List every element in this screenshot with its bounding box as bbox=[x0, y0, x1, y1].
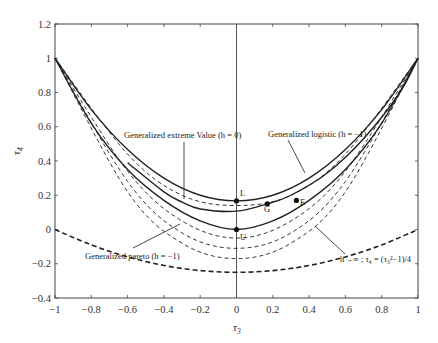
y-tick-label: −0.4 bbox=[32, 293, 52, 304]
x-axis-title: τ3 bbox=[233, 321, 241, 336]
x-tick-label: −1 bbox=[49, 304, 60, 315]
limit-label: h→∞ ; τ₄ = (τ₃²−1)/4 bbox=[340, 254, 412, 264]
point-E bbox=[294, 198, 299, 203]
point-G-label: G bbox=[264, 204, 270, 214]
x-tick-label: 0.2 bbox=[266, 304, 279, 315]
glo-pointer bbox=[288, 140, 305, 173]
x-tick-label: −0.2 bbox=[191, 304, 210, 315]
x-tick-label: −0.8 bbox=[82, 304, 101, 315]
x-tick-label: 0.4 bbox=[303, 304, 317, 315]
point-U-label: U bbox=[240, 232, 246, 242]
y-tick-label: 0.2 bbox=[38, 190, 51, 201]
x-tick-label: 0.6 bbox=[339, 304, 352, 315]
y-tick-label: 1 bbox=[46, 53, 51, 64]
y-tick-label: 0 bbox=[46, 224, 51, 235]
y-axis-title: τ4 bbox=[10, 147, 25, 155]
y-tick-label: −0.2 bbox=[32, 258, 51, 269]
limit-pointer bbox=[315, 226, 345, 254]
glo-label: Generalized logistic (h = −1) bbox=[268, 129, 367, 139]
point-L bbox=[234, 198, 239, 203]
x-tick-label: −0.4 bbox=[154, 304, 174, 315]
l-moment-ratio-chart: −1−0.8−0.6−0.4−0.200.20.40.60.81−0.4−0.2… bbox=[0, 0, 438, 343]
gpa-pointer bbox=[133, 224, 180, 248]
points bbox=[234, 198, 299, 232]
point-U bbox=[234, 227, 239, 232]
x-tick-label: 0 bbox=[234, 304, 239, 315]
gev-label: Generalized extreme Value (h = 0) bbox=[124, 130, 241, 140]
y-tick-label: 0.8 bbox=[38, 87, 51, 98]
y-tick-label: 0.4 bbox=[38, 156, 52, 167]
axes: −1−0.8−0.6−0.4−0.200.20.40.60.81−0.4−0.2… bbox=[32, 19, 421, 316]
point-E-label: E bbox=[300, 197, 305, 207]
y-tick-label: 1.2 bbox=[38, 19, 51, 30]
x-tick-label: 0.8 bbox=[375, 304, 388, 315]
y-tick-label: 0.6 bbox=[38, 121, 51, 132]
gpa-label: Generalized pareto (h = −1) bbox=[85, 251, 180, 261]
x-tick-label: 1 bbox=[415, 304, 420, 315]
x-tick-label: −0.6 bbox=[118, 304, 137, 315]
point-L-label: L bbox=[240, 188, 245, 198]
